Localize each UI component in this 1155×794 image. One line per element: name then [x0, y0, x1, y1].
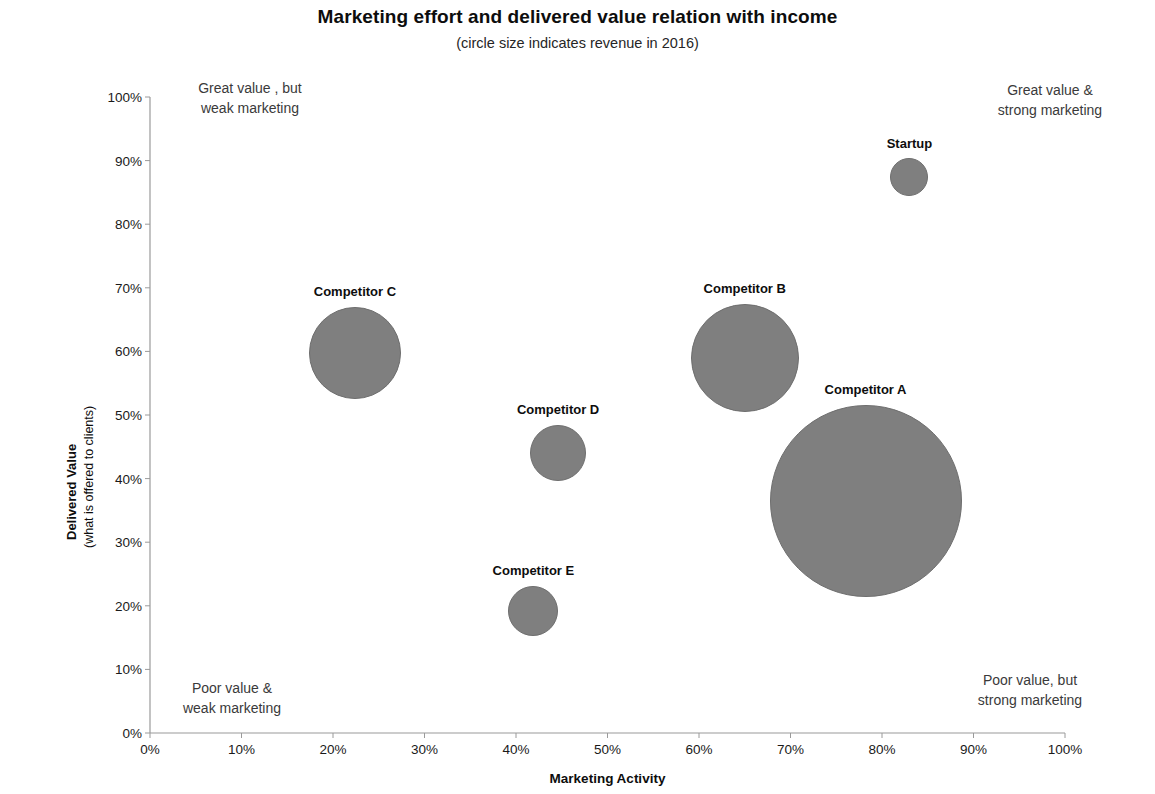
y-tick-label: 0%	[86, 726, 142, 741]
bubble-competitor-b[interactable]	[691, 304, 799, 412]
bubble-competitor-c[interactable]	[309, 307, 401, 399]
axis-lines	[150, 97, 1065, 733]
x-tick-label: 90%	[939, 742, 1009, 757]
x-tick-label: 20%	[298, 742, 368, 757]
bubble-label-competitor-b: Competitor B	[704, 281, 786, 296]
x-tick-label: 0%	[115, 742, 185, 757]
x-tick-label: 100%	[1030, 742, 1100, 757]
x-tick-label: 70%	[756, 742, 826, 757]
bubble-competitor-d[interactable]	[530, 425, 586, 481]
bubble-competitor-e[interactable]	[508, 586, 558, 636]
page-title: Marketing effort and delivered value rel…	[0, 6, 1155, 28]
x-tick-label: 40%	[481, 742, 551, 757]
y-axis-title: Delivered Value	[64, 444, 79, 540]
x-tick-label: 80%	[847, 742, 917, 757]
y-axis-tick-labels: 0%10%20%30%40%50%60%70%80%90%100%	[86, 97, 142, 733]
y-tick-label: 10%	[86, 662, 142, 677]
y-tick-label: 90%	[86, 153, 142, 168]
chart-page: Marketing effort and delivered value rel…	[0, 0, 1155, 794]
annotation-bottom-left: Poor value & weak marketing	[152, 678, 312, 719]
y-tick-label: 50%	[86, 408, 142, 423]
chart-subtitle: (circle size indicates revenue in 2016)	[0, 35, 1155, 51]
bubble-label-competitor-c: Competitor C	[314, 284, 396, 299]
annotation-top-right: Great value & strong marketing	[965, 80, 1135, 121]
y-tick-label: 100%	[86, 90, 142, 105]
bubble-label-competitor-d: Competitor D	[517, 402, 599, 417]
x-tick-label: 60%	[664, 742, 734, 757]
x-tick-label: 10%	[207, 742, 277, 757]
annotation-top-left: Great value , but weak marketing	[175, 78, 325, 119]
y-tick-label: 40%	[86, 471, 142, 486]
y-tick-label: 80%	[86, 217, 142, 232]
bubble-competitor-a[interactable]	[770, 405, 962, 597]
bubble-label-startup: Startup	[887, 136, 933, 151]
bubble-startup[interactable]	[890, 158, 928, 196]
plot-area: Competitor ACompetitor BCompetitor CComp…	[150, 97, 1065, 733]
y-tick-label: 20%	[86, 598, 142, 613]
y-tick-label: 60%	[86, 344, 142, 359]
x-tick-label: 30%	[390, 742, 460, 757]
annotation-bottom-right: Poor value, but strong marketing	[940, 670, 1120, 711]
bubble-label-competitor-a: Competitor A	[825, 382, 907, 397]
x-axis-title: Marketing Activity	[150, 771, 1065, 786]
y-tick-label: 30%	[86, 535, 142, 550]
y-tick-label: 70%	[86, 280, 142, 295]
bubble-label-competitor-e: Competitor E	[493, 563, 575, 578]
x-axis-tick-labels: 0%10%20%30%40%50%60%70%80%90%100%	[150, 742, 1065, 766]
x-tick-label: 50%	[573, 742, 643, 757]
